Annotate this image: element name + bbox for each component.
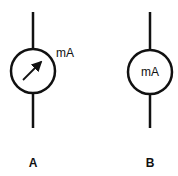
unit-label: mA <box>141 65 159 79</box>
symbol-b: mA B <box>128 12 172 170</box>
symbol-a: mA A <box>11 12 74 170</box>
unit-label: mA <box>56 46 74 60</box>
diagram: mA A mA B <box>0 0 178 176</box>
symbol-label: A <box>29 156 38 170</box>
symbol-label: B <box>146 156 155 170</box>
needle-arrow-icon <box>23 62 41 80</box>
